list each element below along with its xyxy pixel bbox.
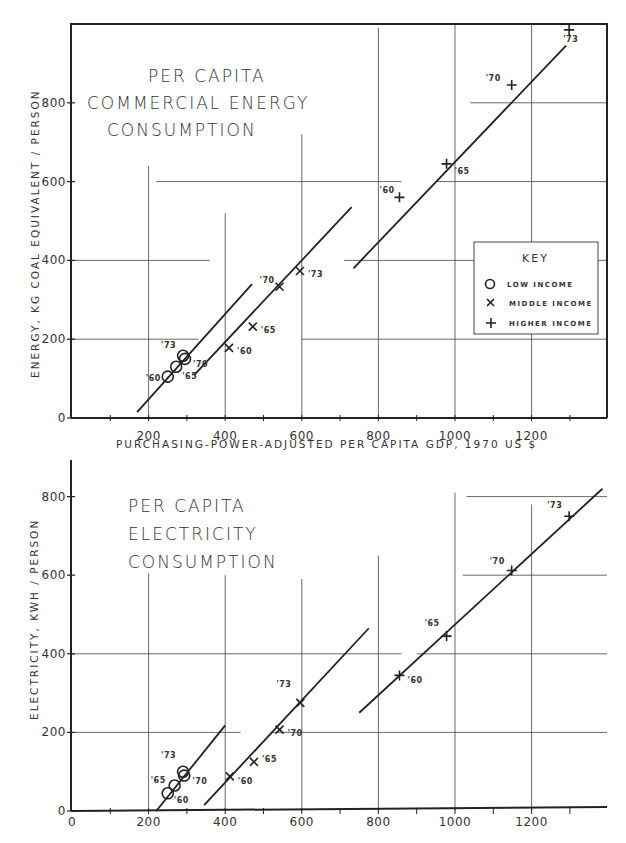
year-label: '60 bbox=[146, 374, 161, 383]
electricity-ticks: 0200400600800020040060080010001200 bbox=[42, 490, 570, 829]
year-label: '70 bbox=[486, 74, 501, 83]
x-tick-label: 600 bbox=[290, 815, 314, 829]
energy-y-axis-title: ENERGY, KG COAL EQUIVALENT / PERSON bbox=[29, 89, 41, 378]
x-tick-label: 0 bbox=[68, 815, 76, 829]
y-tick-label: 600 bbox=[42, 568, 66, 582]
x-marker-icon bbox=[225, 344, 233, 352]
plus-marker-icon bbox=[394, 192, 404, 202]
circle-marker-icon bbox=[171, 361, 182, 372]
plus-marker-icon bbox=[442, 631, 452, 641]
gdp-x-axis-title: PURCHASING-POWER-ADJUSTED PER CAPITA GDP… bbox=[116, 438, 537, 450]
electricity-chart: 0200400600800020040060080010001200 '60'6… bbox=[28, 460, 607, 829]
year-label: '70 bbox=[193, 360, 208, 369]
legend-label-higher-income: HIGHER INCOME bbox=[509, 320, 592, 328]
year-label: '65 bbox=[182, 372, 197, 381]
electricity-data-points: '60'65'70'73'60'65'70'73'60'65'70'73 bbox=[151, 501, 574, 805]
x-tick-label: 200 bbox=[136, 815, 160, 829]
energy-title-line-2: COMMERCIAL ENERGY bbox=[87, 93, 309, 113]
year-label: '70 bbox=[288, 729, 303, 738]
year-label: '70 bbox=[260, 276, 275, 285]
trend-line-low-income bbox=[137, 284, 252, 412]
year-label: '73 bbox=[563, 35, 578, 44]
energy-title-line-1: PER CAPITA bbox=[148, 66, 266, 86]
y-tick-label: 800 bbox=[42, 490, 66, 504]
year-label: '73 bbox=[547, 501, 562, 510]
trend-line-middle-income bbox=[204, 628, 369, 805]
year-label: '70 bbox=[490, 557, 505, 566]
y-tick-label: 0 bbox=[58, 411, 66, 425]
legend-key: KEY LOW INCOME MIDDLE INCOME HIGHER INCO… bbox=[474, 242, 598, 334]
x-tick-label: 1000 bbox=[439, 815, 472, 829]
y-tick-label: 800 bbox=[42, 96, 66, 110]
plus-marker-icon bbox=[507, 80, 517, 90]
year-label: '65 bbox=[425, 619, 440, 628]
year-label: '65 bbox=[151, 776, 166, 785]
y-tick-label: 400 bbox=[42, 647, 66, 661]
electricity-x-axis bbox=[71, 807, 607, 811]
legend-label-middle-income: MIDDLE INCOME bbox=[509, 300, 593, 308]
year-label: '60 bbox=[407, 676, 422, 685]
trend-line-higher-income bbox=[359, 489, 602, 713]
electricity-title-line-3: CONSUMPTION bbox=[128, 552, 278, 572]
year-label: '60 bbox=[237, 347, 252, 356]
year-label: '60 bbox=[379, 186, 394, 195]
figure-canvas: 020040060080020040060080010001200 '60'65… bbox=[0, 0, 626, 843]
plus-marker-icon bbox=[564, 25, 574, 35]
trend-line-higher-income bbox=[354, 46, 567, 269]
x-marker-icon bbox=[296, 699, 304, 707]
x-marker-icon bbox=[226, 772, 234, 780]
x-marker-icon bbox=[296, 267, 304, 275]
x-marker-icon bbox=[249, 323, 257, 331]
electricity-title-line-1: PER CAPITA bbox=[128, 496, 246, 516]
year-label: '73 bbox=[308, 270, 323, 279]
x-marker-icon bbox=[250, 758, 258, 766]
year-label: '65 bbox=[455, 167, 470, 176]
legend-title: KEY bbox=[522, 252, 549, 265]
year-label: '73 bbox=[161, 751, 176, 760]
year-label: '73 bbox=[161, 341, 176, 350]
y-tick-label: 400 bbox=[42, 253, 66, 267]
electricity-title-line-2: ELECTRICITY bbox=[128, 524, 258, 544]
year-label: '65 bbox=[262, 755, 277, 764]
x-tick-label: 400 bbox=[213, 815, 237, 829]
year-label: '70 bbox=[192, 777, 207, 786]
x-tick-label: 1200 bbox=[515, 815, 548, 829]
plus-marker-icon bbox=[507, 565, 517, 575]
year-label: '65 bbox=[261, 326, 276, 335]
electricity-y-axis-title: ELECTRICITY, KWH / PERSON bbox=[28, 519, 40, 720]
x-tick-label: 800 bbox=[366, 815, 390, 829]
y-tick-label: 200 bbox=[42, 332, 66, 346]
legend-label-low-income: LOW INCOME bbox=[507, 281, 574, 289]
y-tick-label: 0 bbox=[58, 804, 66, 818]
trend-line-middle-income bbox=[195, 207, 352, 374]
year-label: '60 bbox=[238, 777, 253, 786]
y-tick-label: 200 bbox=[42, 725, 66, 739]
plus-marker-icon bbox=[564, 511, 574, 521]
year-label: '73 bbox=[276, 680, 291, 689]
year-label: '60 bbox=[174, 796, 189, 805]
energy-title-line-3: CONSUMPTION bbox=[107, 120, 257, 140]
y-tick-label: 600 bbox=[42, 175, 66, 189]
energy-chart: 020040060080020040060080010001200 '60'65… bbox=[29, 24, 607, 450]
